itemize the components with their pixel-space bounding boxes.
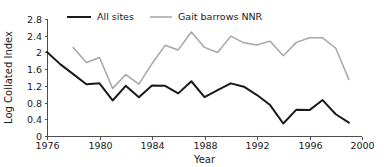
legend-label: All sites [97, 11, 134, 22]
x-tick-label: 1992 [245, 140, 269, 151]
series-group [47, 32, 349, 124]
y-tick-label: 1.2 [27, 81, 42, 92]
x-tick-label: 1996 [298, 140, 322, 151]
x-axis-title: Year [193, 154, 216, 165]
y-tick-label: 0.8 [27, 98, 42, 109]
chart-container: 00.40.81.21.622.42.819761980198419881992… [0, 0, 384, 167]
y-tick-label: 1.6 [27, 64, 42, 75]
y-tick-label: 2.4 [27, 31, 42, 42]
axes-group [48, 19, 363, 137]
series-line-gait-barrows-nnr [73, 32, 349, 88]
series-line-all-sites [47, 52, 349, 123]
legend-item-gait-barrows-nnr: Gait barrows NNR [150, 11, 263, 22]
x-tick-label: 2000 [350, 140, 374, 151]
x-tick-label: 1976 [35, 140, 59, 151]
x-tick-label: 1988 [193, 140, 217, 151]
y-tick-label: 2 [36, 47, 42, 58]
y-tick-label: 2.8 [27, 14, 42, 25]
x-axis-ticks: 1976198019841988199219962000 [35, 137, 374, 152]
x-tick-label: 1984 [140, 140, 164, 151]
legend: All sitesGait barrows NNR [67, 11, 263, 22]
legend-item-all-sites: All sites [67, 11, 134, 22]
y-tick-label: 0.4 [27, 114, 42, 125]
legend-label: Gait barrows NNR [178, 11, 263, 22]
x-tick-label: 1980 [88, 140, 112, 151]
axis-lines [48, 19, 363, 137]
line-chart: 00.40.81.21.622.42.819761980198419881992… [0, 0, 384, 167]
y-axis-ticks: 00.40.81.21.622.42.8 [27, 14, 48, 142]
y-axis-title: Log Collated Index [3, 31, 14, 124]
